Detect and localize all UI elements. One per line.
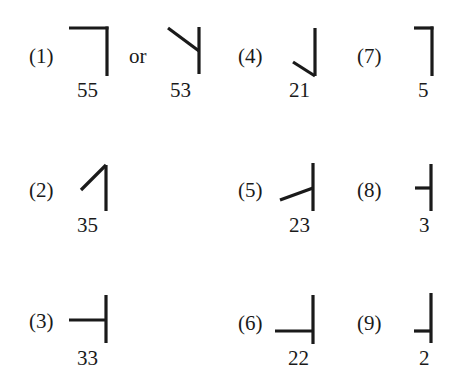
glyph-55 xyxy=(69,27,109,77)
glyph-21-diagonal-stroke xyxy=(293,62,315,76)
glyph-35 xyxy=(81,165,106,211)
glyph-53-code: 53 xyxy=(170,78,191,102)
item-5: (5) 23 xyxy=(238,163,313,237)
item-8-index-label: (8) xyxy=(357,178,382,202)
item-6-index-label: (6) xyxy=(238,311,263,335)
item-2: (2) 35 xyxy=(29,165,106,237)
glyph-53 xyxy=(168,27,199,74)
glyph-23-diagonal-stroke xyxy=(280,188,313,200)
connector-or: or xyxy=(129,44,147,68)
glyph-53-diagonal-stroke xyxy=(168,28,199,51)
glyph-22-code: 22 xyxy=(288,346,309,370)
item-7-index-label: (7) xyxy=(357,44,382,68)
glyph-5-code: 5 xyxy=(418,78,429,102)
item-4: (4) 21 xyxy=(238,28,315,102)
item-5-index-label: (5) xyxy=(238,178,263,202)
glyph-2-code: 2 xyxy=(419,346,430,370)
stroke-glyph-diagram: (1) 55 or 53 (4) 21 (7) 5 (2) xyxy=(0,0,456,387)
glyph-2 xyxy=(414,293,431,343)
glyph-23 xyxy=(280,163,313,211)
glyph-5 xyxy=(414,27,434,77)
glyph-3-code: 3 xyxy=(419,213,430,237)
item-3: (3) 33 xyxy=(29,295,106,370)
item-1: (1) 55 or 53 xyxy=(29,27,199,103)
item-9: (9) 2 xyxy=(357,293,431,370)
glyph-35-diagonal-stroke xyxy=(81,165,106,190)
item-8: (8) 3 xyxy=(357,164,431,237)
glyph-3 xyxy=(415,164,431,211)
item-1-index-label: (1) xyxy=(29,44,54,68)
item-7: (7) 5 xyxy=(357,27,434,103)
glyph-21 xyxy=(293,28,315,76)
item-6: (6) 22 xyxy=(238,295,313,370)
item-3-index-label: (3) xyxy=(29,309,54,333)
item-9-index-label: (9) xyxy=(357,311,382,335)
glyph-33 xyxy=(69,295,106,343)
glyph-23-code: 23 xyxy=(289,213,310,237)
glyph-22 xyxy=(275,295,313,344)
glyph-35-code: 35 xyxy=(77,213,98,237)
glyph-55-code: 55 xyxy=(77,78,98,102)
item-2-index-label: (2) xyxy=(29,178,54,202)
item-4-index-label: (4) xyxy=(238,44,263,68)
glyph-33-code: 33 xyxy=(77,346,98,370)
glyph-21-code: 21 xyxy=(289,78,310,102)
